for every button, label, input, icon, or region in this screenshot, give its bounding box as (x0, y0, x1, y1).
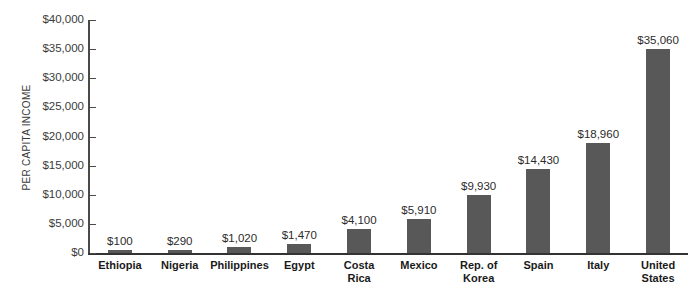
bar-group: $4,100 (329, 20, 389, 253)
bar (467, 195, 491, 253)
bar-group: $35,060 (628, 20, 688, 253)
y-axis-tick-label: $35,000 (18, 42, 84, 56)
bar-group: $100 (90, 20, 150, 253)
bar-group: $1,020 (210, 20, 270, 253)
bar-value-label: $290 (167, 235, 193, 247)
category-label: Rep. of Korea (449, 259, 509, 285)
bar-value-label: $18,960 (577, 128, 619, 140)
bar (287, 244, 311, 253)
category-label: Spain (509, 259, 569, 272)
bar-group: $14,430 (509, 20, 569, 253)
y-axis-tick-label: $5,000 (18, 217, 84, 231)
y-axis-tick-label-text: $10,000 (22, 188, 84, 200)
bar-group: $1,470 (269, 20, 329, 253)
bar (526, 169, 550, 253)
bar-value-label: $1,020 (222, 232, 257, 244)
y-axis-tick-label-text: $15,000 (22, 159, 84, 171)
category-label: Philippines (210, 259, 270, 272)
category-label: Ethiopia (90, 259, 150, 272)
bar-value-label: $9,930 (461, 180, 496, 192)
bar-value-label: $1,470 (282, 229, 317, 241)
bar-group: $5,910 (389, 20, 449, 253)
y-axis-tick-label: $10,000 (18, 188, 84, 202)
y-axis-tick-label-text: $40,000 (22, 13, 84, 25)
bar (347, 229, 371, 253)
bar (646, 49, 670, 253)
plot-area: $100$290$1,020$1,470$4,100$5,910$9,930$1… (90, 20, 688, 253)
bar (108, 250, 132, 253)
category-label: Costa Rica (329, 259, 389, 285)
bar-group: $290 (150, 20, 210, 253)
bar (227, 247, 251, 253)
y-axis-tick-label: $25,000 (18, 100, 84, 114)
bar-value-label: $4,100 (341, 214, 376, 226)
y-axis-tick-label-text: $25,000 (22, 100, 84, 112)
y-axis-tick-label: $30,000 (18, 71, 84, 85)
category-label: United States (628, 259, 688, 285)
bar-value-label: $35,060 (637, 34, 679, 46)
bar (168, 250, 192, 253)
bar-value-label: $100 (107, 235, 133, 247)
category-label: Egypt (269, 259, 329, 272)
category-label: Nigeria (150, 259, 210, 272)
y-axis-tick (90, 253, 96, 254)
y-axis-tick-label-text: $5,000 (22, 217, 84, 229)
bar-group: $18,960 (568, 20, 628, 253)
bar-value-label: $5,910 (401, 204, 436, 216)
bar (586, 143, 610, 253)
y-axis-tick-label: $15,000 (18, 159, 84, 173)
y-axis-tick-label-text: $20,000 (22, 130, 84, 142)
y-axis-tick-label-text: $0 (22, 246, 84, 258)
bar-group: $9,930 (449, 20, 509, 253)
category-label: Italy (568, 259, 628, 272)
y-axis-tick-label: $20,000 (18, 130, 84, 144)
y-axis-tick-label-text: $30,000 (22, 71, 84, 83)
x-axis-line (88, 253, 688, 255)
y-axis-tick-label: $40,000 (18, 13, 84, 27)
bar-value-label: $14,430 (518, 154, 560, 166)
y-axis-tick-label-text: $35,000 (22, 42, 84, 54)
y-axis-tick-label: $0 (18, 246, 84, 260)
bar-chart: PER CAPITA INCOME $0$5,000$10,000$15,000… (0, 0, 694, 295)
bar (407, 219, 431, 253)
category-label: Mexico (389, 259, 449, 272)
